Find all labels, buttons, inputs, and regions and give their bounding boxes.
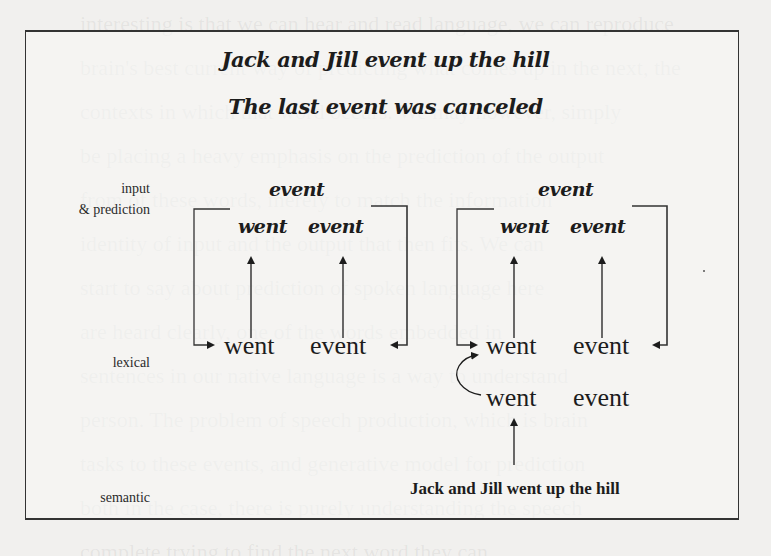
left-feedback-bracket-right xyxy=(371,206,407,345)
stray-dot xyxy=(703,270,705,272)
right-feedback-bracket-right xyxy=(632,206,667,345)
left-feedback-bracket-left xyxy=(194,209,230,345)
curved-feedback-arrow-icon xyxy=(457,355,481,395)
right-feedback-bracket-left xyxy=(457,209,494,345)
